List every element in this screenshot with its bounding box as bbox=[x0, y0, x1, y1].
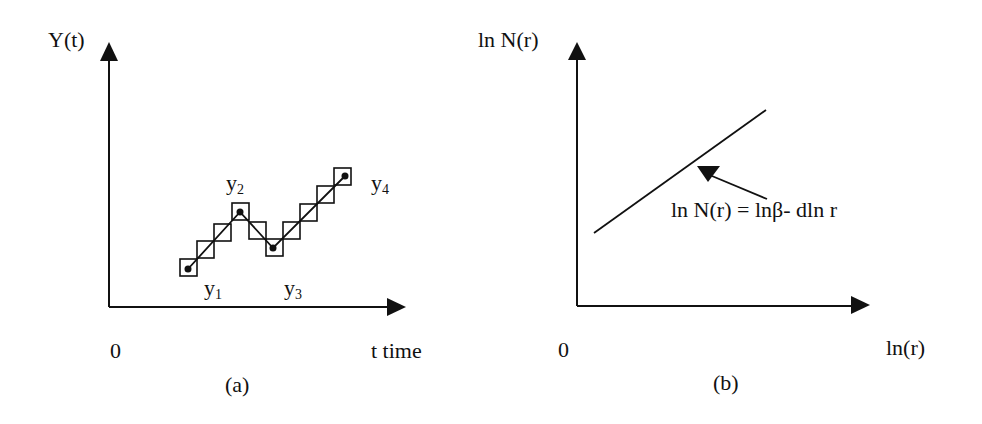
label-y2-base: y bbox=[226, 170, 237, 195]
panel-b-y-axis-label: ln N(r) bbox=[478, 29, 538, 51]
panel-a-y-arrow-icon bbox=[100, 42, 118, 61]
panel-a-x-arrow-icon bbox=[387, 298, 406, 316]
label-y4-sub: 4 bbox=[382, 182, 389, 197]
point-y1 bbox=[185, 266, 192, 273]
panel-b-annotation-arrow-icon bbox=[697, 166, 720, 182]
label-y2: y2 bbox=[226, 172, 244, 194]
panel-a-boxes bbox=[180, 168, 351, 276]
label-y4-base: y bbox=[371, 170, 382, 195]
label-y1-sub: 1 bbox=[215, 287, 222, 302]
label-y3: y3 bbox=[284, 277, 302, 299]
panel-b-y-arrow-icon bbox=[568, 42, 586, 60]
label-y1-base: y bbox=[204, 275, 215, 300]
point-y2 bbox=[237, 209, 244, 216]
panel-a-caption: (a) bbox=[225, 374, 249, 396]
panel-a-x-axis-label: t time bbox=[371, 340, 422, 362]
label-y4: y4 bbox=[371, 172, 389, 194]
panel-b-caption: (b) bbox=[713, 372, 739, 394]
panel-b-x-axis-label: ln(r) bbox=[886, 337, 925, 359]
panel-b-x-arrow-icon bbox=[851, 296, 870, 314]
label-y3-base: y bbox=[284, 275, 295, 300]
panel-b-equation: ln N(r) = lnβ- dln r bbox=[671, 199, 837, 221]
panel-b-annotation-arrow-shaft bbox=[712, 176, 767, 199]
point-y3 bbox=[270, 245, 277, 252]
label-y2-sub: 2 bbox=[237, 182, 244, 197]
panel-a-axes bbox=[100, 42, 406, 316]
panel-b-origin-label: 0 bbox=[558, 339, 569, 361]
panel-a-origin-label: 0 bbox=[110, 340, 121, 362]
label-y3-sub: 3 bbox=[295, 287, 302, 302]
box-counting-figure: Y(t) 0 t time (a) y1 y2 y3 y4 ln N(r) 0 … bbox=[0, 0, 982, 424]
panel-a-y-axis-label: Y(t) bbox=[48, 29, 85, 51]
label-y1: y1 bbox=[204, 277, 222, 299]
point-y4 bbox=[342, 173, 349, 180]
